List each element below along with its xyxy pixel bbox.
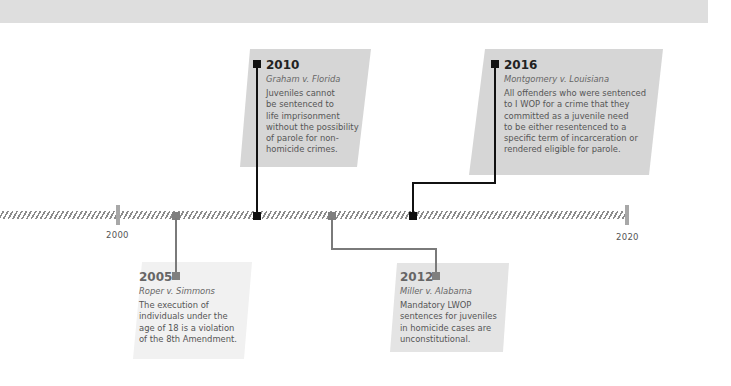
desc-line: All offenders who were sentenced — [504, 88, 664, 99]
desc-line: life imprisonment — [266, 111, 371, 122]
connector-2012-horizontal — [331, 248, 437, 250]
event-year: 2010 — [266, 58, 371, 72]
event-case: Graham v. Florida — [266, 74, 371, 85]
event-case: Miller v. Alabama — [400, 286, 512, 297]
desc-line: in homicide cases are — [400, 323, 512, 334]
event-year: 2012 — [400, 270, 512, 284]
connector-2010 — [256, 64, 258, 216]
header-band — [0, 0, 708, 23]
event-year: 2005 — [139, 270, 251, 284]
event-2010-content: 2010 Graham v. Florida Juveniles cannot … — [266, 58, 371, 155]
event-marker-2005-bottom — [172, 272, 180, 280]
desc-line: individuals under the — [139, 311, 251, 322]
desc-line: be sentenced to — [266, 99, 371, 110]
desc-line: rendered eligible for parole. — [504, 144, 664, 155]
tick-2000 — [116, 205, 120, 225]
connector-2005 — [175, 218, 177, 276]
desc-line: Mandatory LWOP — [400, 300, 512, 311]
connector-2016-vertical-top — [494, 64, 496, 184]
desc-line: without the possibility — [266, 122, 371, 133]
axis-marker-2016[interactable] — [409, 212, 417, 220]
connector-2016-vertical-bottom — [412, 182, 414, 216]
desc-line: unconstitutional. — [400, 334, 512, 345]
desc-line: Juveniles cannot — [266, 88, 371, 99]
desc-line: sentences for juveniles — [400, 311, 512, 322]
event-marker-2012-bottom — [432, 272, 440, 280]
event-2005-content: 2005 Roper v. Simmons The execution of i… — [139, 270, 251, 345]
axis-marker-2010[interactable] — [253, 212, 261, 220]
axis-label-end: 2020 — [616, 232, 639, 242]
desc-line: to I WOP for a crime that they — [504, 99, 664, 110]
event-description: All offenders who were sentenced to I WO… — [504, 88, 664, 155]
desc-line: age of 18 is a violation — [139, 323, 251, 334]
event-description: The execution of individuals under the a… — [139, 300, 251, 345]
desc-line: homicide crimes. — [266, 144, 371, 155]
tick-2020 — [625, 205, 629, 225]
event-2012-content: 2012 Miller v. Alabama Mandatory LWOP se… — [400, 270, 512, 345]
desc-line: to be either resentenced to a — [504, 122, 664, 133]
desc-line: of parole for non- — [266, 133, 371, 144]
event-description: Mandatory LWOP sentences for juveniles i… — [400, 300, 512, 345]
event-year: 2016 — [504, 58, 664, 72]
event-case: Roper v. Simmons — [139, 286, 251, 297]
event-2016-content: 2016 Montgomery v. Louisiana All offende… — [504, 58, 664, 155]
connector-2016-horizontal — [412, 182, 496, 184]
desc-line: The execution of — [139, 300, 251, 311]
desc-line: of the 8th Amendment. — [139, 334, 251, 345]
desc-line: specific term of incarceration or — [504, 133, 664, 144]
axis-label-start: 2000 — [106, 230, 129, 240]
event-case: Montgomery v. Louisiana — [504, 74, 664, 85]
desc-line: committed as a juvenile need — [504, 111, 664, 122]
connector-2012-vertical-bottom — [435, 248, 437, 274]
connector-2012-vertical-top — [331, 218, 333, 249]
timeline-axis — [0, 211, 628, 219]
event-description: Juveniles cannot be sentenced to life im… — [266, 88, 371, 155]
